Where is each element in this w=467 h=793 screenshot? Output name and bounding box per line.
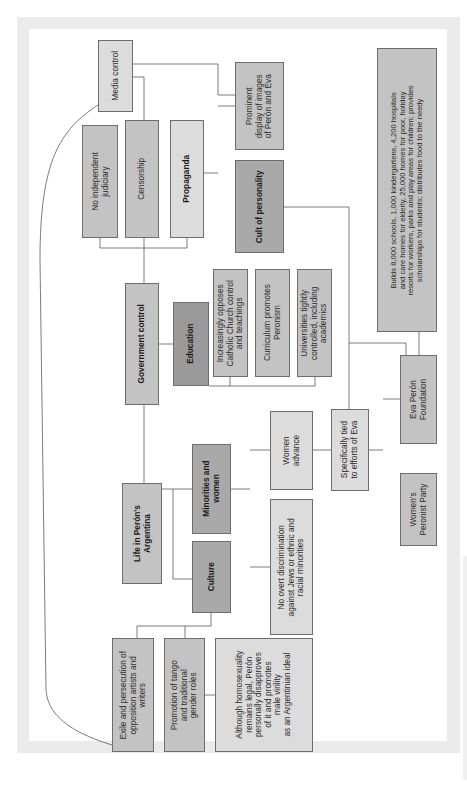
media-control-box: Media control — [98, 40, 133, 112]
education-box: Education — [173, 302, 209, 386]
specifically-tied-box: Specifically tied to efforts of Eva — [331, 409, 369, 491]
cult-of-personality-box: Cult of personality — [235, 160, 284, 253]
culture-box: Culture — [192, 541, 231, 613]
propaganda-box: Propaganda — [170, 120, 204, 238]
foundation-details-box: Builds 8,000 schools, 1,000 kindergarten… — [377, 48, 437, 332]
prominent-display-box: Prominent display of images of Perón and… — [235, 62, 284, 150]
eva-peron-foundation-box: Eva Perón Foundation — [400, 355, 437, 444]
no-independent-judiciary-box: No independent judiciary — [82, 125, 118, 238]
minorities-and-women-box: Minorities and women — [192, 444, 231, 534]
universities-box: Universities tightly controlled, includi… — [297, 269, 332, 377]
government-control-box: Government control — [125, 283, 159, 405]
root-life-in-peron-argentina-box: Life in Perón's Argentina — [122, 483, 162, 584]
curriculum-box: Curriculum promotes Peronism — [255, 269, 290, 377]
women-advance-box: Women advance — [270, 411, 313, 490]
censorship-box: Censorship — [125, 120, 159, 238]
opposes-church-box: Increasingly opposes Catholic Church con… — [213, 269, 248, 377]
homosexuality-box: Although homosexuality remains legal, Pe… — [215, 638, 313, 752]
exile-persecution-box: Exile and persecution of opposition arti… — [112, 638, 154, 752]
no-overt-discrimination-box: No overt discrimination against Jews or … — [270, 499, 313, 635]
womens-peronist-party-box: Women's Peronist Party — [400, 473, 437, 546]
tango-gender-roles-box: Promotion of tango and traditional gende… — [164, 638, 205, 752]
